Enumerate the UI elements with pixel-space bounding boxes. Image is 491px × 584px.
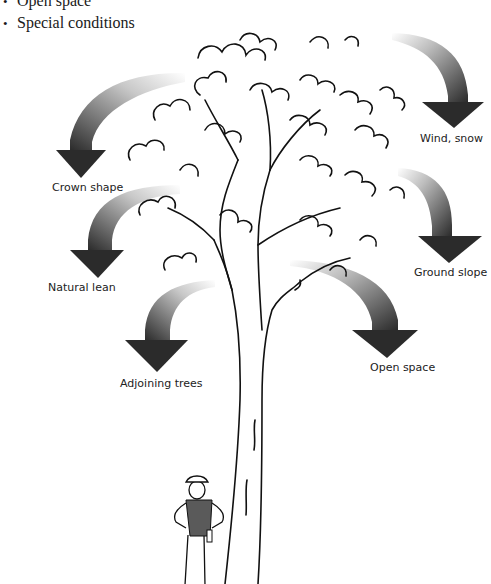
arrow-ground-slope bbox=[398, 168, 482, 263]
arrow-crown-shape bbox=[56, 73, 185, 178]
label-natural-lean: Natural lean bbox=[48, 281, 116, 294]
arrow-wind-snow bbox=[392, 33, 484, 128]
label-crown-shape: Crown shape bbox=[52, 181, 123, 194]
label-ground-slope: Ground slope bbox=[414, 266, 487, 279]
label-open-space: Open space bbox=[370, 361, 435, 374]
arrow-adjoining-trees bbox=[125, 280, 215, 372]
observer-figure bbox=[175, 476, 224, 584]
label-adjoining-trees: Adjoining trees bbox=[120, 377, 203, 390]
label-wind-snow: Wind, snow bbox=[420, 132, 483, 145]
